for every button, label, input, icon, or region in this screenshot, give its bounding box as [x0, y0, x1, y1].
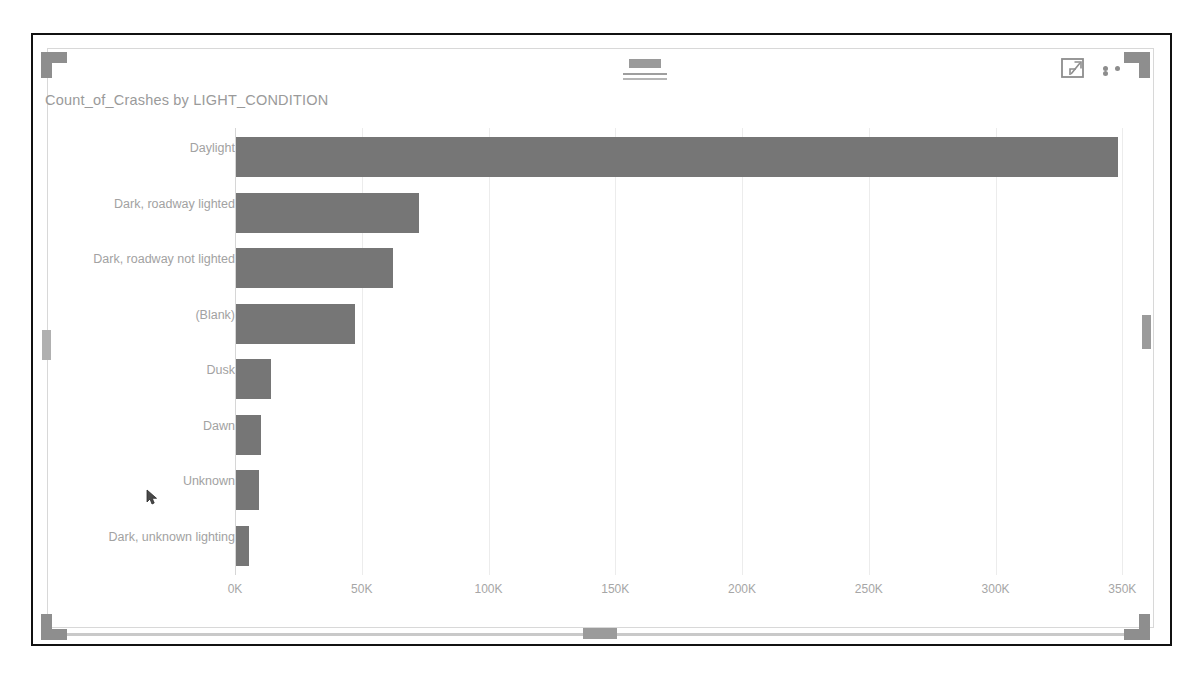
- y-axis-label[interactable]: Unknown: [47, 474, 235, 488]
- x-axis-label: 100K: [475, 582, 503, 596]
- vertical-scrollbar-thumb[interactable]: [1142, 315, 1151, 349]
- x-axis-label: 150K: [601, 582, 629, 596]
- drag-handle-bar-3: [623, 78, 667, 80]
- bar[interactable]: [236, 193, 419, 233]
- drag-handle-bar-2: [623, 73, 667, 75]
- drag-handle-bar-1: [629, 59, 661, 68]
- resize-handle-top-left-arm[interactable]: [41, 52, 67, 63]
- horizontal-scrollbar-thumb[interactable]: [583, 628, 617, 639]
- x-axis-label: 0K: [228, 582, 243, 596]
- bar-series[interactable]: [236, 128, 1136, 575]
- x-axis-label: 50K: [351, 582, 372, 596]
- bar[interactable]: [236, 304, 355, 344]
- visual-header: [47, 48, 1154, 88]
- focus-mode-icon[interactable]: [1060, 56, 1086, 80]
- more-options-icon[interactable]: [1103, 66, 1137, 76]
- plot-area: DaylightDark, roadway lightedDark, roadw…: [47, 120, 1154, 600]
- y-axis-labels: DaylightDark, roadway lightedDark, roadw…: [47, 120, 235, 575]
- y-axis-label[interactable]: Dark, roadway lighted: [47, 197, 235, 211]
- y-axis-label[interactable]: Dusk: [47, 363, 235, 377]
- bar[interactable]: [236, 415, 261, 455]
- bar[interactable]: [236, 470, 259, 510]
- bar[interactable]: [236, 137, 1118, 177]
- screenshot-root: Count_of_Crashes by LIGHT_CONDITION Dayl…: [0, 0, 1203, 683]
- bar[interactable]: [236, 248, 393, 288]
- x-axis-labels: 0K50K100K150K200K250K300K350K: [235, 582, 1155, 602]
- x-axis-label: 200K: [728, 582, 756, 596]
- x-axis-label: 350K: [1108, 582, 1136, 596]
- y-axis-label[interactable]: (Blank): [47, 308, 235, 322]
- x-axis-label: 300K: [982, 582, 1010, 596]
- mouse-cursor-icon: [146, 489, 159, 506]
- more-dot-3: [1103, 71, 1108, 76]
- y-axis-label[interactable]: Dark, unknown lighting: [47, 530, 235, 544]
- chart-title: Count_of_Crashes by LIGHT_CONDITION: [45, 92, 328, 108]
- y-axis-label[interactable]: Daylight: [47, 141, 235, 155]
- vertical-scrollbar-thumb-left[interactable]: [42, 330, 51, 360]
- bar[interactable]: [236, 359, 271, 399]
- resize-handle-bottom-left-arm[interactable]: [41, 629, 67, 640]
- resize-handle-top-right-arm[interactable]: [1124, 52, 1150, 63]
- x-axis-label: 250K: [855, 582, 883, 596]
- more-dot-2: [1115, 66, 1120, 71]
- y-axis-label[interactable]: Dawn: [47, 419, 235, 433]
- y-axis-label[interactable]: Dark, roadway not lighted: [47, 252, 235, 266]
- resize-handle-bottom-right-arm[interactable]: [1124, 629, 1150, 640]
- bar[interactable]: [236, 526, 249, 566]
- drag-handle-icon[interactable]: [587, 57, 657, 79]
